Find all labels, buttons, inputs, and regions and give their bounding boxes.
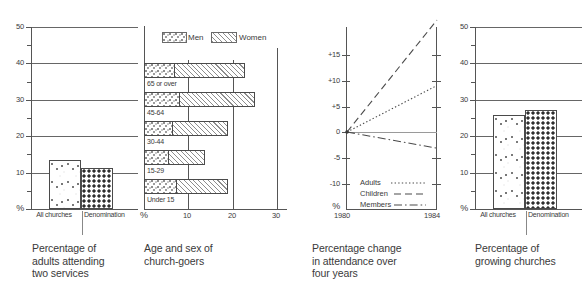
gridline-20: [233, 60, 234, 209]
ytick-minor-35: [27, 82, 32, 83]
caption-line-2: church-goers: [144, 255, 294, 268]
x-axis-line: [144, 209, 287, 210]
bar-all-churches: [49, 160, 81, 209]
zero-line: [346, 132, 437, 133]
ytick-major-40: [470, 63, 476, 64]
bar-women-65-or-over: [174, 63, 245, 78]
x-axis-line: [475, 209, 582, 210]
caption-line-1: Percentage of: [32, 242, 148, 255]
panel-caption: Percentage of growing churches: [475, 242, 587, 267]
caption-line-1: Percentage of: [475, 242, 587, 255]
bar-women-under-15: [176, 179, 228, 194]
gridline-30: [475, 100, 582, 101]
ytick-major-0: [26, 209, 32, 210]
category-label-denomination: Denomination: [528, 211, 587, 218]
caption-line-3: two services: [32, 267, 148, 280]
ytick-label-20: 20: [2, 131, 24, 140]
xtick-label-10: 10: [183, 211, 191, 220]
ytick-label-50: 50: [446, 22, 468, 31]
legend-swatch-men: [162, 32, 187, 43]
gridline-50: [31, 27, 138, 28]
series-line-children: [347, 20, 437, 132]
category-separator: [82, 211, 83, 235]
ytick-label-0: %: [2, 203, 24, 213]
ytick-major-0: [470, 209, 476, 210]
bar-men-65-or-over: [144, 63, 175, 78]
ytick-major-10: [470, 173, 476, 174]
ytick-label-0: %: [446, 203, 468, 213]
bar-denomination: [525, 110, 557, 209]
ytick-minor-45: [471, 45, 476, 46]
ytick-label-plus-15: +15: [314, 50, 340, 59]
chart-panel-attending-two-services: 50 40 30 20 10 % All churches Denominati…: [0, 0, 150, 285]
caption-line-1: Percentage change: [312, 242, 452, 255]
caption-line-1: Age and sex of: [144, 242, 294, 255]
ytick-label-30: 30: [446, 95, 468, 104]
ytick-major-30: [26, 100, 32, 101]
ytick-minor-5: [471, 191, 476, 192]
xtick-label-30: 30: [272, 211, 280, 220]
ytick-label-minus-10: -10: [314, 179, 340, 188]
bar-women-15-29: [168, 150, 205, 165]
ytick-major-50: [26, 27, 32, 28]
ytick-minor-15: [27, 154, 32, 155]
ytick-minor-35: [471, 82, 476, 83]
ytick-zero: [342, 132, 350, 133]
ytick-label-10: 10: [2, 168, 24, 177]
category-label-all-churches: All churches: [26, 211, 82, 218]
row-label-65-or-over: 65 or over: [147, 80, 177, 87]
legend-label-women: Women: [239, 33, 266, 42]
ytick-label-zero: 0: [314, 127, 340, 136]
gridline-50: [475, 27, 582, 28]
x-axis-line: [346, 209, 437, 210]
panel-caption: Age and sex of church-goers: [144, 242, 294, 267]
category-separator: [526, 211, 527, 235]
row-label-45-64: 45-64: [147, 109, 164, 116]
ytick-major-10: [26, 173, 32, 174]
gridline-20: [31, 136, 138, 137]
gridline-30: [277, 48, 278, 209]
legend-label-members: Members: [360, 200, 391, 209]
xtick-label-20: 20: [228, 211, 236, 220]
xtick-label-start: 1980: [334, 211, 350, 220]
ytick-label-percent: %: [314, 201, 340, 211]
ytick-major-40: [26, 63, 32, 64]
caption-line-3: four years: [312, 267, 452, 280]
ytick-plus-15: [342, 55, 350, 56]
ytick-minus-10: [342, 184, 350, 185]
bar-men-under-15: [144, 179, 177, 194]
ytick-minor-5: [27, 191, 32, 192]
gridline-30: [31, 100, 138, 101]
legend-swatch-women: [211, 32, 237, 43]
ytick-label-30: 30: [2, 95, 24, 104]
ytick-label-minus-5: -5: [314, 153, 340, 162]
row-label-under-15: Under 15: [147, 196, 174, 203]
bar-women-30-44: [172, 121, 228, 136]
bar-men-30-44: [144, 121, 173, 136]
ytick-minor-25: [27, 118, 32, 119]
ytick-minor-45: [27, 45, 32, 46]
ytick-label-20: 20: [446, 131, 468, 140]
bar-women-45-64: [179, 92, 255, 107]
ytick-label-40: 40: [446, 58, 468, 67]
bar-men-15-29: [144, 150, 169, 165]
series-line-members: [347, 132, 436, 148]
ytick-label-40: 40: [2, 58, 24, 67]
gridline-40: [475, 63, 582, 64]
bar-men-45-64: [144, 92, 180, 107]
ytick-major-30: [470, 100, 476, 101]
category-label-all-churches: All churches: [470, 211, 526, 218]
caption-line-2: growing churches: [475, 255, 587, 268]
ytick-label-plus-5: +5: [314, 102, 340, 111]
series-line-adults: [347, 86, 436, 132]
row-label-30-44: 30-44: [147, 138, 164, 145]
ytick-major-20: [470, 136, 476, 137]
caption-line-2: in attendance over: [312, 255, 452, 268]
ytick-label-plus-10: +10: [314, 76, 340, 85]
caption-line-2: adults attending: [32, 255, 148, 268]
xtick-label-0: %: [140, 210, 148, 220]
ytick-minor-25: [471, 118, 476, 119]
ytick-label-10: 10: [446, 168, 468, 177]
ytick-label-50: 50: [2, 22, 24, 31]
bar-denomination: [81, 168, 113, 209]
